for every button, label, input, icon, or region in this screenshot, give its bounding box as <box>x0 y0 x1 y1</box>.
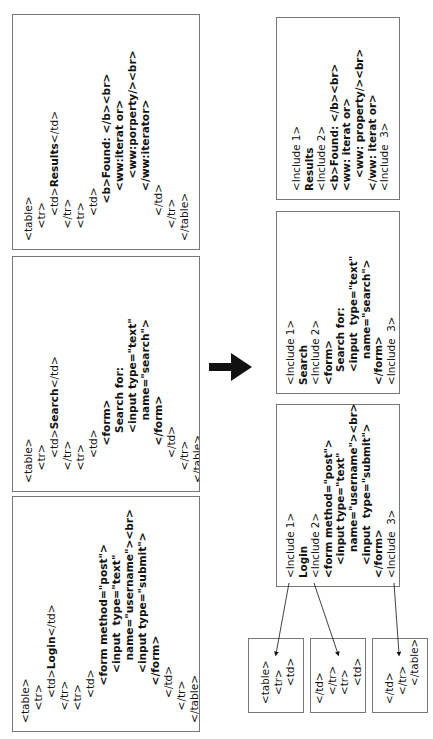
code-line: <input type="submit"> <box>360 405 373 586</box>
include-fragment-2-code: </td></tr><tr><td> <box>311 639 365 712</box>
code-line: <tr> <box>35 257 48 491</box>
code-line: </ww:iterator> <box>139 15 152 249</box>
result-page-login-code: <Include 1>Login<Include 2><form method=… <box>277 405 399 586</box>
code-line: </form> <box>372 405 385 586</box>
code-line: </td> <box>383 639 396 712</box>
code-line: <ww:porperty/><br> <box>126 15 139 249</box>
code-line: </tr> <box>165 15 178 249</box>
code-line: </form> <box>149 497 162 731</box>
source-page-search-code: <table><tr><td>Search</td></tr><tr><td><… <box>13 257 199 491</box>
code-line: </table> <box>188 497 200 731</box>
code-line: <form> <box>322 212 335 393</box>
code-line: <td>Results</td> <box>48 15 61 249</box>
code-line: <tr> <box>338 639 351 712</box>
result-page-results-code: <Include 1>Results<Include 2><b>Found: <… <box>277 18 399 199</box>
caption-cutoff <box>14 735 334 739</box>
code-line: <Include 2> <box>309 405 322 586</box>
include-fragment-2: </td></tr><tr><td> <box>310 638 366 713</box>
include-fragment-1: <table><tr><td> <box>248 638 304 713</box>
code-line: <b>Found: </b><br> <box>100 15 113 249</box>
code-line: <table> <box>22 15 35 249</box>
code-line: Login <box>297 405 310 586</box>
include-fragment-3: </td></tr></table> <box>372 638 428 713</box>
code-line: <form> <box>100 257 113 491</box>
code-line: <td> <box>84 497 97 731</box>
code-line: <tr> <box>35 15 48 249</box>
code-line: name="search"> <box>360 212 373 393</box>
code-line: Search for: <box>334 212 347 393</box>
code-line: Search <box>297 212 310 393</box>
include-fragment-1-code: <table><tr><td> <box>249 639 303 712</box>
code-line: <form method="post"> <box>97 497 110 731</box>
result-page-results: <Include 1>Results<Include 2><b>Found: <… <box>276 17 400 200</box>
code-line: <td> <box>87 257 100 491</box>
code-line: <ww: property/><br> <box>353 18 366 199</box>
code-line: </tr> <box>61 15 74 249</box>
code-line: <td>Search</td> <box>48 257 61 491</box>
code-line: </table> <box>191 257 200 491</box>
source-page-results: <table><tr><td>Results</td></tr><tr><td>… <box>12 14 200 250</box>
code-line: </ww: iterat or> <box>366 18 379 199</box>
code-line: <input type="text" <box>110 497 123 731</box>
code-line: <b>Found: </b><br> <box>328 18 341 199</box>
code-line: <table> <box>22 257 35 491</box>
result-page-search: <Include 1>Search<Include 2><form>Search… <box>276 211 400 394</box>
code-line: <ww: iterat or> <box>340 18 353 199</box>
result-page-search-code: <Include 1>Search<Include 2><form>Search… <box>277 212 399 393</box>
code-line: <tr> <box>272 639 285 712</box>
include-fragment-3-code: </td></tr></table> <box>373 639 427 712</box>
code-line: <Include 1> <box>290 18 303 199</box>
code-line: </form> <box>152 257 165 491</box>
code-line: <ww:iterat or> <box>113 15 126 249</box>
code-line: <Include 3> <box>385 405 398 586</box>
code-line: <tr> <box>74 257 87 491</box>
code-line: Search for: <box>113 257 126 491</box>
code-line: name="username"><br> <box>123 497 136 731</box>
code-line: </tr> <box>58 497 71 731</box>
code-line: </td> <box>162 497 175 731</box>
code-line: Results <box>303 18 316 199</box>
code-line: <input type="text" <box>126 257 139 491</box>
code-line: <table> <box>19 497 32 731</box>
code-line: <td> <box>351 639 364 712</box>
code-line: <table> <box>259 639 272 712</box>
code-line: </td> <box>152 15 165 249</box>
code-line: <input type="text" <box>347 212 360 393</box>
source-page-search: <table><tr><td>Search</td></tr><tr><td><… <box>12 256 200 492</box>
code-line: </td> <box>165 257 178 491</box>
code-line: name="username"><br> <box>347 405 360 586</box>
result-page-login: <Include 1>Login<Include 2><form method=… <box>276 404 400 587</box>
code-line: <Include 2> <box>315 18 328 199</box>
code-line: <Include 3> <box>385 212 398 393</box>
code-line: <input type="submit"> <box>136 497 149 731</box>
code-line: <Include 3> <box>378 18 391 199</box>
code-line: </tr> <box>61 257 74 491</box>
code-line: <Include 2> <box>309 212 322 393</box>
code-line: <td> <box>284 639 297 712</box>
code-line: <tr> <box>74 15 87 249</box>
code-line: <td>Login</td> <box>45 497 58 731</box>
code-line: <input type="text" <box>334 405 347 586</box>
code-line: </tr> <box>326 639 339 712</box>
code-line: </table> <box>178 15 191 249</box>
source-page-login: <table><tr><td>Login</td></tr><tr><td><f… <box>12 496 200 732</box>
code-line: </table> <box>408 639 421 712</box>
code-line: <tr> <box>32 497 45 731</box>
code-line: name="search"> <box>139 257 152 491</box>
code-line: <form method="post"> <box>322 405 335 586</box>
source-page-results-code: <table><tr><td>Results</td></tr><tr><td>… <box>13 15 199 249</box>
code-line: </td> <box>313 639 326 712</box>
code-line: </form> <box>372 212 385 393</box>
code-line: </tr> <box>178 257 191 491</box>
source-page-login-code: <table><tr><td>Login</td></tr><tr><td><f… <box>13 497 199 731</box>
code-line: </tr> <box>396 639 409 712</box>
code-line: </tr> <box>175 497 188 731</box>
code-line: <Include 1> <box>284 405 297 586</box>
code-line: <Include 1> <box>284 212 297 393</box>
code-line: <tr> <box>71 497 84 731</box>
code-line: <td> <box>87 15 100 249</box>
